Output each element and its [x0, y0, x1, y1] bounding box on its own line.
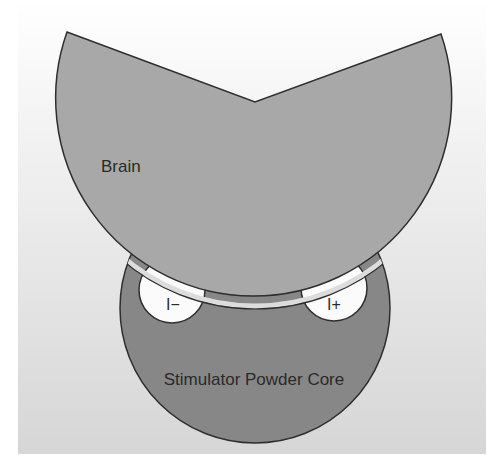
- brain-label: Brain: [101, 157, 141, 176]
- positive-electrode-label: I+: [327, 296, 341, 313]
- negative-electrode-label: I−: [166, 296, 180, 313]
- brain-stimulator-diagram: Brain Stimulator Powder Core I− I+: [0, 0, 501, 474]
- core-label: Stimulator Powder Core: [164, 370, 344, 389]
- diagram-canvas: Brain Stimulator Powder Core I− I+: [0, 0, 501, 474]
